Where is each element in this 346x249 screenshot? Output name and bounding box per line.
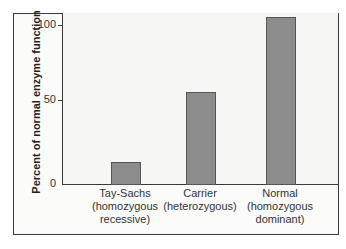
category-line: (heterozygous)	[155, 200, 245, 213]
category-line: (homozygous	[235, 200, 325, 213]
category-line: Normal	[235, 187, 325, 200]
category-line: recessive)	[80, 213, 170, 226]
ytick-100	[58, 25, 62, 26]
category-label-normal: Normal (homozygous dominant)	[235, 187, 325, 226]
category-label-carrier: Carrier (heterozygous)	[155, 187, 245, 213]
bar-carrier	[186, 92, 216, 185]
y-axis-label: Percent of normal enzyme function	[30, 10, 42, 193]
category-line: dominant)	[235, 213, 325, 226]
ytick-50	[58, 100, 62, 101]
plot-area	[62, 13, 338, 185]
bar-tay-sachs	[111, 162, 141, 185]
category-line: Carrier	[155, 187, 245, 200]
bar-normal	[266, 17, 296, 185]
